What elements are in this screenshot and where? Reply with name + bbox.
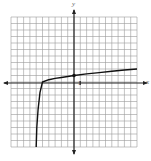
unit-tick-label: 1 [78,80,81,86]
y-axis-arrow-up-icon [72,9,76,14]
x-axis-label: x [146,78,149,86]
y-intercept-point [72,74,76,78]
coordinate-plane [0,0,151,161]
y-axis-arrow-down-icon [72,150,76,155]
y-axis-label: y [72,0,75,8]
x-axis-arrow-left-icon [3,81,8,85]
